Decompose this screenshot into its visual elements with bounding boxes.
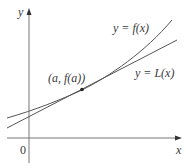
tangent-point xyxy=(80,88,84,92)
x-axis-label: x xyxy=(176,144,181,156)
curve-L-label: y = L(x) xyxy=(135,67,174,79)
curve-f-label: y = f(x) xyxy=(113,22,149,34)
point-label: (a, f(a)) xyxy=(48,72,85,84)
x-axis-arrow-icon xyxy=(175,136,182,141)
diagram-canvas xyxy=(0,0,186,168)
y-axis-arrow-icon xyxy=(27,8,32,15)
tangent-line-L xyxy=(7,40,177,128)
origin-label: 0 xyxy=(20,144,26,156)
y-axis-label: y xyxy=(18,6,23,18)
linear-approximation-diagram: y x 0 y = f(x) y = L(x) (a, f(a)) xyxy=(0,0,186,168)
